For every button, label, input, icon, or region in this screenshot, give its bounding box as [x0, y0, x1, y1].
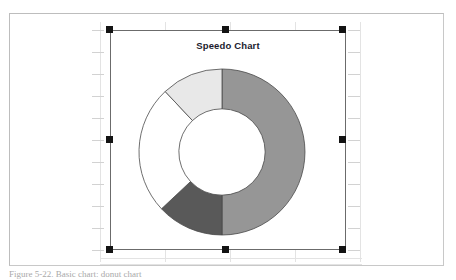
- ruler-tick: [92, 206, 104, 207]
- ruler-tick: [348, 250, 360, 251]
- handle-top-center[interactable]: [222, 26, 229, 33]
- ruler-tick: [92, 96, 104, 97]
- ruler-tick: [92, 118, 104, 119]
- gridline-horizontal: [100, 264, 362, 265]
- ruler-tick: [92, 250, 104, 251]
- ruler-tick: [92, 52, 104, 53]
- ruler-tick: [348, 162, 360, 163]
- ruler-tick: [92, 162, 104, 163]
- donut-chart-svg: [137, 67, 307, 237]
- ruler-tick: [92, 228, 104, 229]
- handle-bottom-right[interactable]: [339, 246, 346, 253]
- ruler-tick: [348, 140, 360, 141]
- handle-middle-left[interactable]: [106, 136, 113, 143]
- gridline-horizontal: [100, 258, 362, 259]
- figure-caption: Figure 5-22. Basic chart: donut chart: [9, 269, 339, 280]
- ruler-tick: [348, 74, 360, 75]
- ruler-tick: [92, 184, 104, 185]
- ruler-tick: [92, 74, 104, 75]
- gridline-vertical: [360, 22, 361, 262]
- ruler-tick: [348, 52, 360, 53]
- handle-top-right[interactable]: [339, 26, 346, 33]
- handle-top-left[interactable]: [106, 26, 113, 33]
- chart-title: Speedo Chart: [111, 40, 345, 51]
- donut-chart-plot-area[interactable]: [137, 67, 307, 237]
- ruler-tick: [348, 30, 360, 31]
- ruler-tick: [348, 206, 360, 207]
- ruler-tick: [348, 184, 360, 185]
- handle-bottom-center[interactable]: [222, 246, 229, 253]
- ruler-tick: [92, 140, 104, 141]
- ruler-tick: [348, 96, 360, 97]
- donut-slice[interactable]: [222, 69, 305, 235]
- chart-object[interactable]: Speedo Chart: [110, 30, 346, 250]
- ruler-tick: [348, 228, 360, 229]
- handle-bottom-left[interactable]: [106, 246, 113, 253]
- document-page: Speedo Chart Figure 5-22. Basic chart: d…: [0, 0, 456, 280]
- ruler-tick: [348, 118, 360, 119]
- ruler-tick: [92, 30, 104, 31]
- handle-middle-right[interactable]: [339, 136, 346, 143]
- gridline-vertical: [100, 22, 101, 262]
